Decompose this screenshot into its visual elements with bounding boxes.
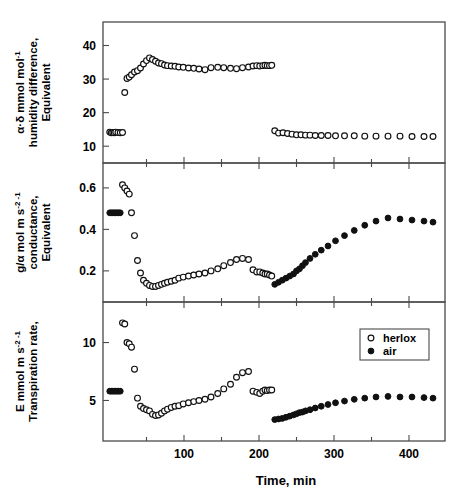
data-point — [215, 266, 221, 272]
series-herlox-conductance — [120, 182, 275, 289]
panel-transpiration: 105Transpiration rate,E mmol m s-2 -1 — [13, 302, 445, 441]
data-point — [385, 394, 391, 400]
data-point — [215, 64, 221, 70]
data-point — [409, 217, 415, 223]
data-point — [385, 133, 391, 139]
data-point — [221, 386, 227, 392]
data-point — [333, 238, 339, 244]
data-point — [430, 134, 436, 140]
data-point — [228, 381, 234, 387]
data-point — [269, 62, 275, 68]
data-point — [362, 133, 368, 139]
data-point — [307, 256, 313, 262]
x-tick-label: 200 — [249, 447, 269, 461]
y-axis-label-line: Transpiration rate, — [27, 321, 39, 421]
legend-label-herlox: herlox — [383, 332, 417, 344]
data-point — [421, 134, 427, 140]
data-point — [240, 370, 246, 376]
figure-root: 40302010Equivalenthumidity difference,α·… — [0, 0, 461, 496]
panel-conductance: 0.60.40.2Equivalentconductance,g/α mol m… — [13, 163, 445, 302]
x-tick-label: 100 — [174, 447, 194, 461]
data-point — [342, 398, 348, 404]
legend-label-air: air — [383, 345, 397, 357]
y-tick-label: 30 — [83, 73, 97, 87]
data-point — [312, 133, 318, 139]
data-point — [234, 374, 240, 380]
y-axis-label-line: g/α mol m s-2 -1 — [13, 192, 26, 273]
data-point — [385, 215, 391, 221]
y-tick-label: 40 — [83, 39, 97, 53]
x-tick-label: 400 — [399, 447, 419, 461]
data-point — [202, 270, 208, 276]
data-point — [246, 369, 252, 375]
data-point — [132, 233, 138, 239]
data-point — [221, 263, 227, 269]
data-point — [208, 268, 214, 274]
y-axis-label-line: Equivalent — [40, 203, 52, 261]
y-axis-label-line: humidity difference, — [27, 38, 39, 147]
data-point — [362, 222, 368, 228]
data-point — [208, 394, 214, 400]
y-tick-label: 5 — [89, 394, 96, 408]
data-point — [351, 396, 357, 402]
data-point — [421, 218, 427, 224]
data-point — [138, 270, 144, 276]
data-point — [196, 398, 202, 404]
data-point — [373, 133, 379, 139]
panel-humidity: 40302010Equivalenthumidity difference,α·… — [13, 22, 445, 163]
data-point — [215, 391, 221, 397]
data-point — [269, 387, 275, 393]
data-point — [362, 395, 368, 401]
data-point — [333, 133, 339, 139]
y-axis-label-line: Equivalent — [40, 63, 52, 121]
data-point — [208, 65, 214, 71]
data-point — [318, 247, 324, 253]
data-point — [409, 134, 415, 140]
y-tick-label: 20 — [83, 106, 97, 120]
data-point — [122, 90, 128, 96]
data-point — [117, 388, 123, 394]
data-point — [312, 405, 318, 411]
data-point — [325, 402, 331, 408]
y-tick-label: 0.6 — [79, 181, 96, 195]
data-point — [397, 216, 403, 222]
y-tick-label: 0.2 — [79, 264, 96, 278]
data-point — [342, 233, 348, 239]
data-point — [409, 394, 415, 400]
data-point — [397, 133, 403, 139]
data-point — [129, 344, 135, 350]
data-point — [135, 395, 141, 401]
legend: herloxair — [360, 329, 429, 360]
data-point — [234, 66, 240, 72]
data-point — [246, 257, 252, 263]
data-point — [202, 67, 208, 73]
data-point — [325, 243, 331, 249]
data-point — [373, 394, 379, 400]
data-point — [342, 133, 348, 139]
data-point — [269, 273, 275, 279]
y-axis-label-line: conductance, — [27, 195, 39, 269]
data-point — [351, 133, 357, 139]
x-tick-label: 300 — [324, 447, 344, 461]
data-point — [135, 258, 141, 264]
data-point — [228, 65, 234, 71]
data-point — [318, 133, 324, 139]
data-point — [120, 130, 126, 136]
data-point — [373, 218, 379, 224]
data-point — [122, 321, 128, 327]
data-point — [333, 400, 339, 406]
data-point — [196, 271, 202, 277]
data-point — [421, 395, 427, 401]
data-point — [221, 65, 227, 71]
data-point — [126, 191, 132, 197]
data-point — [240, 65, 246, 71]
data-point — [234, 257, 240, 263]
data-point — [325, 133, 331, 139]
data-point — [132, 366, 138, 372]
series-herlox-humidity — [107, 55, 436, 139]
data-point — [240, 256, 246, 262]
data-point — [129, 210, 135, 216]
data-point — [318, 403, 324, 409]
data-point — [202, 396, 208, 402]
y-axis-label-line: α·δ mmol mol-1 — [13, 51, 26, 134]
